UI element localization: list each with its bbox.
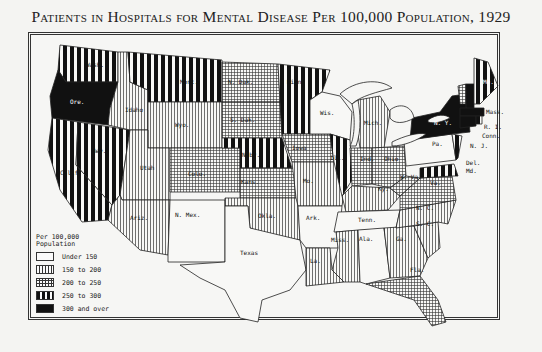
svg-text:Wyo.: Wyo. [175,121,189,129]
state-mass [460,108,484,116]
svg-text:Nev.: Nev. [92,147,106,154]
svg-text:Mo.: Mo. [303,177,314,184]
svg-text:Pa.: Pa. [432,140,443,147]
svg-text:Ark.: Ark. [306,214,320,221]
state-iowa [282,134,334,162]
swatch-vertical-lines-icon [36,265,54,274]
svg-text:Minn.: Minn. [287,78,305,85]
svg-text:Okla.: Okla. [258,212,276,219]
svg-text:Ala.: Ala. [359,235,373,242]
svg-text:Tenn.: Tenn. [358,216,376,223]
svg-text:Ga.: Ga. [396,235,407,242]
state-ariz [108,195,170,255]
swatch-blank-icon [36,252,54,261]
legend-item-under-150: Under 150 [36,252,109,261]
svg-text:Calif.: Calif. [60,169,82,176]
svg-text:N. C.: N. C. [416,204,434,211]
state-md [420,164,458,178]
svg-text:Ohio: Ohio [384,155,399,162]
svg-text:S. Dak.: S. Dak. [230,116,255,123]
svg-text:Ore.: Ore. [70,98,84,105]
swatch-crosshatch-icon [36,278,54,287]
swatch-bold-stripes-icon [36,291,54,300]
svg-text:Wis.: Wis. [320,109,334,116]
svg-text:N. Dak.: N. Dak. [228,78,253,85]
svg-text:S. C.: S. C. [416,220,434,227]
svg-text:Fla.: Fla. [410,266,424,273]
svg-text:N. Mex.: N. Mex. [175,211,200,218]
svg-text:Ky.: Ky. [378,185,389,193]
swatch-solid-black-icon [36,304,54,313]
svg-text:Me.: Me. [483,78,494,85]
svg-text:Nebr.: Nebr. [242,151,260,158]
state-ri [476,116,482,124]
svg-text:La.: La. [310,257,321,264]
svg-text:Utah: Utah [140,164,155,171]
legend-item-300-over: 300 and over [36,304,109,313]
svg-text:Del.: Del. [466,159,480,166]
svg-text:Va.: Va. [430,179,441,186]
svg-text:Texas: Texas [240,249,258,256]
svg-text:Ariz.: Ariz. [130,214,148,221]
state-ind [350,148,372,186]
legend-item-150-200: 150 to 200 [36,265,109,274]
state-fla [366,276,446,326]
svg-text:Conn.: Conn. [482,132,500,139]
svg-text:Mass.: Mass. [486,108,504,115]
state-nh [466,84,474,110]
state-ky [342,186,400,212]
svg-text:Idaho: Idaho [125,106,143,113]
svg-text:Md.: Md. [466,167,477,174]
svg-text:Wash.: Wash. [86,61,104,68]
svg-text:Colo.: Colo. [188,170,206,177]
svg-text:Mich.: Mich. [364,119,382,126]
svg-text:Mont.: Mont. [180,78,198,85]
svg-text:N. Y.: N. Y. [434,119,452,126]
state-conn [460,116,476,128]
legend-title-line2: Population [36,241,109,248]
map-legend: Per 100,000 Population Under 150 150 to … [36,234,109,313]
svg-text:R. I.: R. I. [484,123,502,130]
svg-text:Ill.: Ill. [330,154,344,161]
svg-text:Iowa: Iowa [292,144,307,151]
svg-text:Kans.: Kans. [241,178,259,185]
state-nmex [168,200,225,262]
svg-text:W. Va.: W. Va. [400,173,422,180]
legend-item-200-250: 200 to 250 [36,278,109,287]
svg-text:Ind.: Ind. [360,155,374,162]
svg-text:Miss.: Miss. [331,236,349,243]
legend-item-250-300: 250 to 300 [36,291,109,300]
svg-text:N. J.: N. J. [470,142,488,149]
